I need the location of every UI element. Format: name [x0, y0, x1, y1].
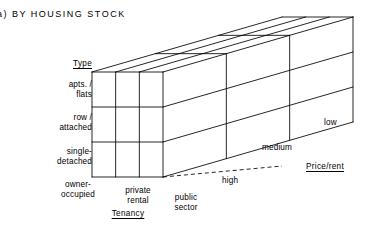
axis-title-price-rent: Price/rent — [306, 162, 376, 172]
axis-category-low: low — [324, 118, 368, 128]
axis-category-owner-occupied: owner-occupied — [52, 180, 104, 199]
axis-title-type: Type — [30, 59, 92, 69]
axis-title-tenancy: Tenancy — [100, 209, 156, 219]
housing-stock-figure: a) BY HOUSING STOCK Type apts. /flats ro… — [0, 0, 390, 231]
axis-category-row-attached: row /attached — [14, 113, 92, 132]
axis-category-private-rental: privaterental — [112, 186, 164, 205]
axis-category-apartments-flats: apts. /flats — [14, 80, 92, 99]
axis-category-high: high — [222, 176, 266, 186]
axis-category-medium: medium — [262, 143, 306, 153]
axis-category-public-sector: publicsector — [160, 193, 212, 212]
axis-category-single-detached: single-detached — [14, 147, 92, 166]
